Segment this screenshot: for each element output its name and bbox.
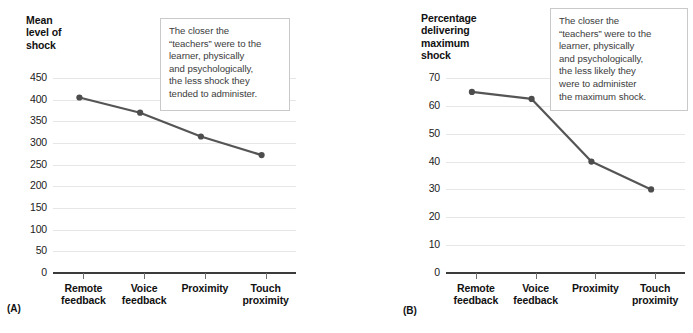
milgram-proximity-figure: Mean level of shock 05010015020025030035… [0, 0, 693, 333]
callout-annotation-b: The closer the “teachers” were to the le… [550, 8, 688, 111]
x-tick-mark [144, 273, 145, 279]
chart-panel-a: Mean level of shock 05010015020025030035… [0, 0, 347, 333]
x-axis-category-label: Touch proximity [616, 282, 693, 306]
x-tick-mark [83, 273, 84, 279]
panel-letter-a: (A) [7, 303, 21, 314]
x-tick-mark [266, 273, 267, 279]
x-tick-mark [536, 273, 537, 279]
chart-panel-b: Percentage delivering maximum shock 0102… [347, 0, 693, 333]
x-axis-category-label: Touch proximity [227, 282, 305, 306]
callout-annotation-a: The closer the “teachers” were to the le… [160, 18, 290, 111]
x-tick-mark [476, 273, 477, 279]
x-tick-mark [595, 273, 596, 279]
x-tick-mark [655, 273, 656, 279]
panel-letter-b: (B) [403, 305, 417, 316]
x-tick-mark [205, 273, 206, 279]
